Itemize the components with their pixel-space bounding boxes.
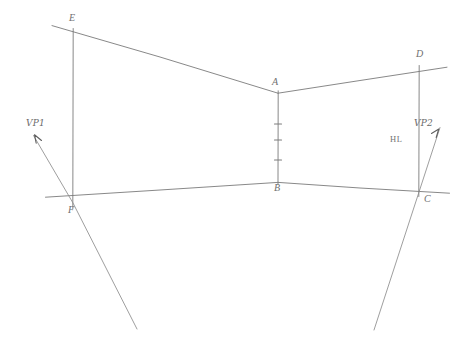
label-point-f: F [68, 205, 74, 215]
ray-vp1-through-F [34, 136, 138, 330]
drawing-canvas: E D A B C F VP1 VP2 HL [0, 0, 464, 360]
ray-vp2-through-C [374, 128, 440, 331]
arrowhead-vp1-icon [35, 135, 42, 143]
line-B-to-C [278, 182, 450, 193]
line-A-to-D [278, 67, 447, 93]
label-point-d: D [416, 49, 423, 59]
label-horizon-line: HL [390, 135, 402, 144]
label-point-a: A [272, 77, 278, 87]
label-vanishing-point-1: VP1 [26, 119, 45, 128]
label-vanishing-point-2: VP2 [414, 119, 433, 128]
vertical-edges-group [73, 29, 419, 209]
label-point-e: E [69, 13, 75, 23]
label-point-b: B [274, 183, 280, 193]
line-F-to-B [46, 182, 279, 197]
line-E-to-A [52, 26, 278, 94]
arrowhead-vp2-icon [432, 129, 439, 138]
receding-lines-group [46, 26, 450, 198]
perspective-line-art [0, 0, 464, 360]
vanishing-rays-group [34, 128, 441, 331]
label-point-c: C [424, 194, 431, 204]
arrowheads-group [35, 129, 439, 143]
